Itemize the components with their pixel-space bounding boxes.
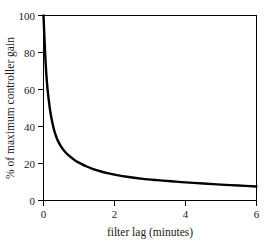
y-tick-label-80: 80 <box>24 47 36 59</box>
x-tick-label-4: 4 <box>183 208 189 220</box>
x-tick-label-0: 0 <box>41 208 47 220</box>
chart-figure: 100 80 60 40 20 0 0 2 4 6 filter lag (mi… <box>0 0 274 244</box>
y-tick-label-100: 100 <box>19 10 36 22</box>
x-tick-label-2: 2 <box>112 208 118 220</box>
x-tick-label-6: 6 <box>254 208 260 220</box>
y-tick-label-40: 40 <box>24 121 36 133</box>
x-axis-title: filter lag (minutes) <box>107 226 193 239</box>
y-tick-label-0: 0 <box>30 195 36 207</box>
y-tick-label-20: 20 <box>24 158 36 170</box>
y-tick-label-60: 60 <box>24 84 36 96</box>
chart-plot-area: 100 80 60 40 20 0 0 2 4 6 filter lag (mi… <box>0 0 274 244</box>
y-axis-title: % of maximum controller gain <box>4 37 17 179</box>
